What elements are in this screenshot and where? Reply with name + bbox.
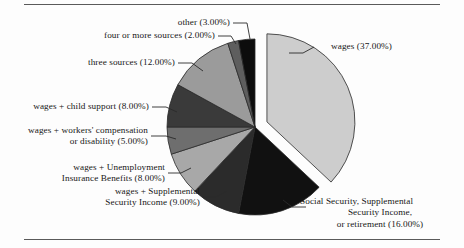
slice-label-three-sources: three sources (12.00%) bbox=[32, 57, 175, 68]
slice-label-wages: wages (37.00%) bbox=[331, 41, 392, 52]
slice-label-wages-workers-comp-line2: or disability (5.00%) bbox=[8, 136, 148, 147]
slice-label-wages-ssi-line1: wages + Supplemental bbox=[63, 186, 200, 197]
slice-label-wages-unemployment-line1: wages + Unemployment bbox=[28, 162, 165, 173]
slice-label-social-security-line2: Security Income, bbox=[300, 207, 460, 218]
slice-label-wages-unemployment-line2: Insurance Benefits (8.00%) bbox=[28, 173, 165, 184]
slice-label-social-security-line3: or retirement (16.00%) bbox=[300, 219, 460, 230]
slice-label-wages-child-support: wages + child support (8.00%) bbox=[11, 101, 149, 112]
slice-label-four-or-more-sources-line1: four or more sources (2.00%) bbox=[58, 30, 215, 41]
slice-label-four-or-more-sources: four or more sources (2.00%) bbox=[58, 30, 215, 41]
slice-label-social-security: Social Security, Supplemental Security I… bbox=[300, 196, 460, 230]
slice-label-other: other (3.00%) bbox=[128, 17, 230, 28]
slice-label-three-sources-line1: three sources (12.00%) bbox=[32, 57, 175, 68]
leader-line-other bbox=[233, 23, 250, 39]
slice-label-wages-child-support-line1: wages + child support (8.00%) bbox=[11, 101, 149, 112]
slice-label-wages-workers-comp-line1: wages + workers' compensation bbox=[8, 125, 148, 136]
slice-label-wages-unemployment: wages + Unemployment Insurance Benefits … bbox=[28, 162, 165, 185]
slice-label-wages-ssi: wages + Supplemental Security Income (9.… bbox=[63, 186, 200, 209]
pie-chart-figure: wages (37.00%) Social Security, Suppleme… bbox=[0, 0, 464, 248]
slice-label-social-security-line1: Social Security, Supplemental bbox=[300, 196, 460, 207]
slice-label-wages-workers-comp: wages + workers' compensation or disabil… bbox=[8, 125, 148, 148]
slice-label-other-line1: other (3.00%) bbox=[128, 17, 230, 28]
slice-label-wages-ssi-line2: Security Income (9.00%) bbox=[63, 197, 200, 208]
slice-label-wages-line1: wages (37.00%) bbox=[331, 41, 392, 52]
